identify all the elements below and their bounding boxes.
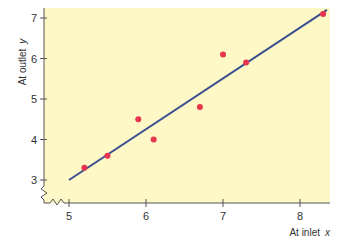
data-point (220, 51, 226, 57)
y-tick-label: 3 (31, 174, 37, 186)
x-tick-label: 5 (66, 210, 72, 222)
y-tick-label: 4 (31, 134, 37, 146)
data-point (105, 153, 111, 159)
x-axis-label: At inletx (289, 227, 331, 238)
y-axis-label: At outlety (17, 38, 28, 86)
data-point (243, 60, 249, 66)
x-tick-label: 7 (220, 210, 226, 222)
data-point (151, 137, 157, 143)
y-tick-label: 6 (31, 53, 37, 65)
data-point (197, 104, 203, 110)
x-tick-label: 6 (143, 210, 149, 222)
data-point (135, 116, 141, 122)
data-point (320, 11, 326, 17)
scatter-chart: 34567 5678 At inletx At outlety (0, 0, 349, 250)
data-point (81, 165, 87, 171)
x-tick-label: 8 (297, 210, 303, 222)
y-tick-label: 7 (31, 12, 37, 24)
y-tick-label: 5 (31, 93, 37, 105)
